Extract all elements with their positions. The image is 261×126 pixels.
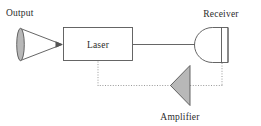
connection-amplifier-to-laser [98, 61, 171, 86]
beam-cone-arrowhead-icon [56, 41, 64, 48]
laser-label: Laser [87, 40, 110, 50]
receiver-dome [195, 28, 229, 63]
receiver-node [195, 28, 229, 63]
output-beam-cone [21, 29, 64, 61]
receiver-label: Receiver [203, 9, 239, 19]
laser-node: Laser [64, 28, 133, 61]
lens-ellipse-icon [17, 28, 25, 60]
output-label: Output [6, 8, 34, 18]
diagram-svg: Output Laser Receiver Amplifier [0, 0, 261, 126]
amplifier-label: Amplifier [160, 112, 200, 122]
amplifier-node [171, 66, 191, 106]
output-lens [17, 28, 25, 60]
diagram-canvas: Output Laser Receiver Amplifier [0, 0, 261, 126]
amplifier-triangle [171, 66, 191, 106]
connection-receiver-to-amplifier [190, 63, 222, 86]
